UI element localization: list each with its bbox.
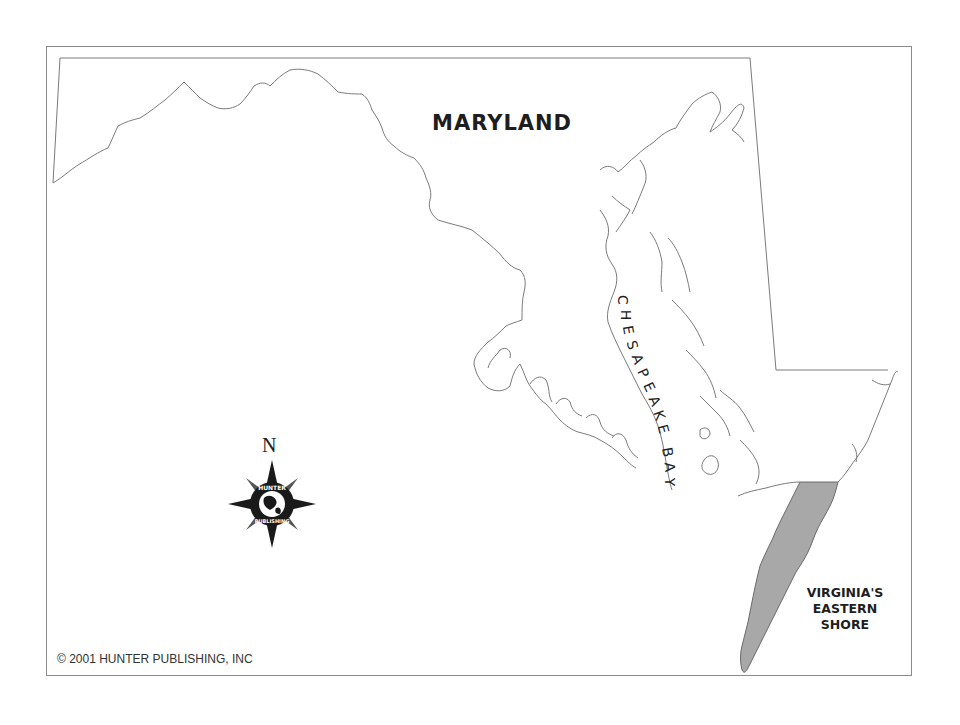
copyright-notice: © 2001 HUNTER PUBLISHING, INC [57,652,253,666]
western-shore-inlets [488,348,638,458]
north-label: N [262,434,276,457]
bay-letter: H [618,310,634,321]
compass-logo-bottom-text: PUBLISHING [255,518,290,524]
compass-rose-icon: HUNTER PUBLISHING [228,460,316,548]
va-label-line-2: EASTERN [788,601,902,617]
compass-logo-top-text: HUNTER [258,484,286,491]
map-title: MARYLAND [432,111,572,135]
atlantic-coast [838,371,898,482]
bay-letter: Y [662,478,678,487]
virginia-eastern-shore [741,482,839,672]
bay-islands [700,428,718,474]
va-label-line-1: VIRGINIA'S [788,585,902,601]
virginia-eastern-shore-label: VIRGINIA'S EASTERN SHORE [788,585,902,633]
va-label-line-3: SHORE [788,617,902,633]
bay-letter: A [661,462,678,473]
bay-letter: C [615,295,631,305]
